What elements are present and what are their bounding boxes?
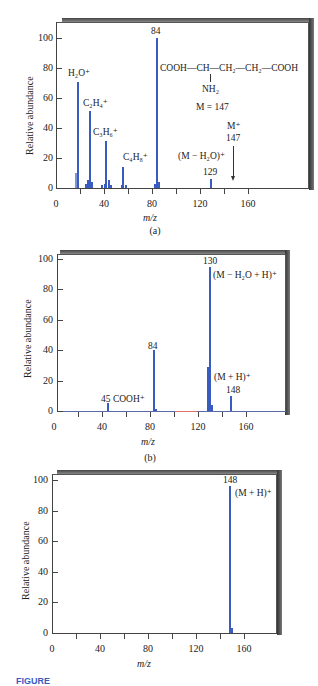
- y-tick: [52, 602, 58, 603]
- annotation-148: 148: [223, 475, 237, 485]
- x-tick-label: 80: [133, 644, 163, 654]
- y-axis-title: Relative abundance: [20, 521, 31, 600]
- y-tick: [52, 541, 58, 542]
- annotation-m-plus-h: (M + H)⁺: [235, 488, 272, 498]
- x-tick: [76, 634, 77, 639]
- x-axis-title: m/z: [124, 658, 164, 669]
- frame-shadow-right: [277, 470, 282, 635]
- y-tick-label: 100: [24, 475, 48, 485]
- x-tick-label: 0: [37, 644, 67, 654]
- plot-frame: [52, 474, 277, 634]
- y-tick: [52, 480, 58, 481]
- y-axis: [52, 474, 53, 634]
- x-tick: [100, 634, 101, 639]
- x-tick: [196, 634, 197, 639]
- x-tick-label: 160: [229, 644, 259, 654]
- y-tick: [52, 572, 58, 573]
- peak: [229, 486, 231, 633]
- y-tick: [52, 511, 58, 512]
- x-tick: [244, 634, 245, 639]
- figure-caption: FIGURE: [16, 676, 50, 686]
- y-tick: [52, 633, 58, 634]
- x-tick-label: 40: [85, 644, 115, 654]
- peak: [231, 628, 233, 633]
- y-tick-label: 80: [24, 506, 48, 516]
- y-tick-label: 0: [24, 628, 48, 638]
- x-tick: [220, 634, 221, 639]
- x-tick: [172, 634, 173, 639]
- x-tick: [124, 634, 125, 639]
- x-tick: [148, 634, 149, 639]
- x-tick-label: 120: [181, 644, 211, 654]
